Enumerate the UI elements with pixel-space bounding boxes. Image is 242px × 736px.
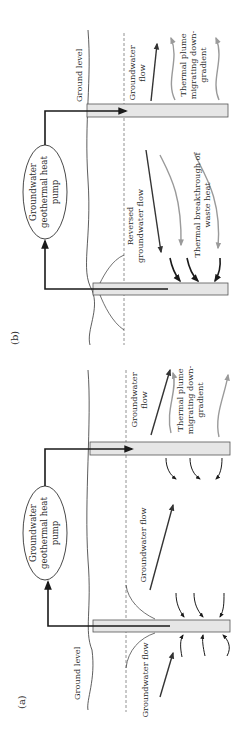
inflow-arrow-3: [215, 258, 220, 281]
panel-a: (a) Ground level Groundwater geothermal …: [16, 365, 230, 717]
inflow-arrow-bottom-3: [223, 635, 229, 656]
groundwater-flow-arrow-left: [160, 653, 173, 697]
thermal-plume-label-3: gradient: [195, 382, 205, 418]
thermal-plume-arrow-2: [216, 38, 219, 100]
thermal-breakthrough-label-2: waste heat: [202, 182, 212, 228]
pump-label-line2: geothermal heat: [39, 156, 49, 228]
thermal-plume-arrow-2: [218, 375, 228, 437]
panel-b-label: (b): [9, 331, 20, 345]
reversed-flow-label-1: Reversed: [125, 207, 135, 246]
ground-level-line: [87, 30, 95, 345]
thermal-plume-label-1: Thermal plume: [175, 368, 185, 431]
panel-a-label: (a): [16, 695, 27, 709]
thermal-plume-label-1: Thermal plume: [178, 33, 188, 96]
outflow-arrow-2: [190, 458, 200, 479]
groundwater-flow-left-label: Groundwater flow: [140, 642, 150, 717]
groundwater-flow-arrow-middle: [150, 505, 173, 590]
outflow-arrow-1: [166, 458, 176, 479]
panel-b: (b) Ground level Groundwater geothermal …: [9, 30, 228, 345]
pump-label-line2: geothermal heat: [39, 497, 49, 569]
extraction-to-pump-pipe: [48, 582, 170, 626]
groundwater-flow-arrow: [151, 44, 157, 101]
thermal-breakthrough-arrow-1: [160, 155, 181, 245]
drawdown-cone-lower: [100, 295, 124, 330]
ground-level-line: [87, 370, 93, 710]
inflow-arrow-top-3: [220, 593, 224, 617]
reversed-flow-label-2: groundwater flow: [135, 189, 145, 263]
thermal-breakthrough-label-1: Thermal breakthrough of: [192, 152, 202, 258]
pump-label-line3: pump: [50, 520, 60, 545]
groundwater-flow-right-label-2: flow: [139, 391, 149, 408]
inflow-arrow-top-1: [176, 593, 184, 617]
groundwater-flow-arrow-right: [151, 370, 170, 435]
ground-level-label: Ground level: [72, 646, 82, 700]
inflow-arrow-bottom-1: [181, 635, 183, 657]
extraction-to-pump-pipe: [45, 241, 168, 289]
inflow-arrow-bottom-2: [203, 635, 205, 656]
groundwater-flow-right-label-1: Groundwater: [129, 372, 139, 427]
inflow-arrow-2: [187, 258, 198, 281]
groundwater-flow-label-2: flow: [137, 64, 147, 81]
pump-label-line1: Groundwater: [28, 503, 38, 562]
groundwater-flow-middle-label: Groundwater flow: [138, 507, 148, 582]
thermal-plume-label-2: migrating down-: [185, 365, 195, 434]
inflow-arrow-1: [170, 258, 180, 281]
ground-level-label: Ground level: [74, 48, 84, 102]
inflow-arrow-top-2: [194, 593, 203, 617]
pump-label-line3: pump: [50, 179, 60, 204]
thermal-plume-label-3: gradient: [198, 47, 208, 83]
thermal-plume-label-2: migrating down-: [188, 30, 198, 99]
drawdown-cone-upper: [100, 255, 124, 283]
reversed-flow-arrow: [146, 150, 161, 252]
thermal-plume-arrow-1: [169, 373, 174, 433]
outflow-arrow-3: [216, 458, 222, 479]
thermal-plume-arrow-1: [171, 38, 175, 100]
groundwater-heat-pump-diagram: (b) Ground level Groundwater geothermal …: [0, 0, 242, 736]
groundwater-flow-label-1: Groundwater: [127, 45, 137, 100]
pump-label-line1: Groundwater: [28, 162, 38, 221]
